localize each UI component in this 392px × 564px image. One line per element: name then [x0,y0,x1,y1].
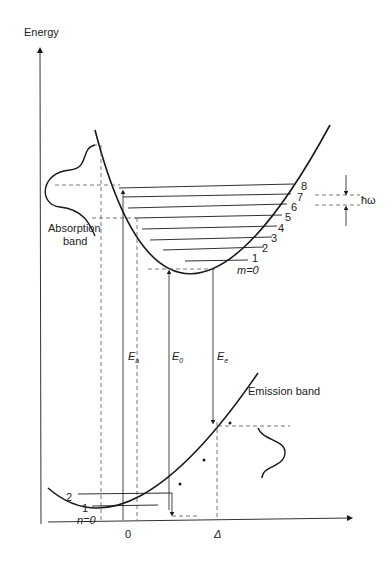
svg-text:2: 2 [66,491,72,503]
svg-text:8: 8 [301,180,307,192]
ground-state-curve [48,373,258,508]
hbar-omega-label: ħω [361,194,376,206]
svg-text:n=0: n=0 [77,514,97,526]
zero-phonon-energy-label: E0 [172,350,183,364]
svg-text:3: 3 [271,232,277,244]
absorption-energy-label: Ea [128,350,139,364]
x-tick-zero: 0 [125,528,131,540]
x-tick-delta: Δ [213,528,221,540]
svg-text:4: 4 [278,222,284,234]
svg-text:2: 2 [262,242,268,254]
absorption-band-guides [55,145,137,520]
svg-text:7: 7 [297,191,303,203]
quantum-spacing-marker [315,175,360,226]
configuration-coordinate-diagram: Energy 0 Δ m=0 1 2 3 4 5 6 7 8 ħω [0,0,392,564]
y-axis-label: Energy [24,26,59,38]
absorption-band-label-line1: Absorption [48,222,101,234]
svg-text:1: 1 [252,252,258,264]
emission-energy-label: Ee [217,350,228,364]
emission-band-label: Emission band [248,385,320,397]
svg-text:m=0: m=0 [237,264,260,276]
svg-text:1: 1 [82,502,88,514]
emission-band-curve [258,428,285,478]
y-axis [40,50,41,524]
excited-state-curve [95,125,330,274]
ground-state-levels [78,493,172,506]
absorption-band-label-line2: band [63,235,87,247]
